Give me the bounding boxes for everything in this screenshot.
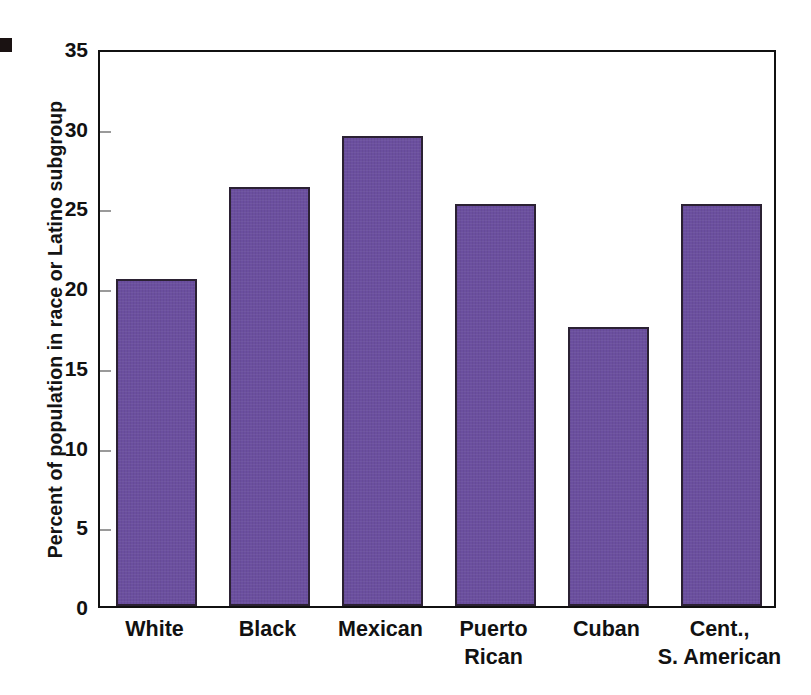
bar-texture	[344, 138, 421, 604]
y-axis-tick-label-0: 0	[40, 597, 88, 618]
x-axis-label-black: Black	[203, 616, 332, 644]
y-axis-tick-5	[100, 529, 111, 531]
y-axis-tick-label-35: 35	[40, 39, 88, 60]
y-axis-tick-30	[100, 131, 111, 133]
chart-figure: Percent of population in race or Latino …	[0, 0, 811, 695]
x-axis-label-mexican: Mexican	[316, 616, 445, 644]
plot-area	[98, 50, 776, 608]
bar-texture	[457, 206, 534, 604]
y-axis-tick-20	[100, 290, 111, 292]
plot-inner	[100, 52, 774, 606]
y-axis-tick-label-10: 10	[40, 438, 88, 459]
bar-mexican	[342, 136, 423, 606]
bar-texture	[231, 189, 308, 604]
y-axis-tick-label-30: 30	[40, 119, 88, 140]
y-axis-tick-25	[100, 210, 111, 212]
x-axis-label-cuban: Cuban	[542, 616, 671, 644]
y-axis-title: Percent of population in race or Latino …	[44, 25, 67, 635]
y-axis-tick-label-20: 20	[40, 278, 88, 299]
bar-cuban	[568, 327, 649, 606]
bar-white	[116, 279, 197, 606]
bar-texture	[570, 329, 647, 604]
bar-texture	[118, 281, 195, 604]
bar-puerto-rican	[455, 204, 536, 606]
x-axis-label-white: White	[90, 616, 219, 644]
bar-cent-s-american	[681, 204, 762, 606]
x-axis-label-cent-s-american: Cent., S. American	[655, 616, 784, 671]
y-axis-tick-label-5: 5	[40, 517, 88, 538]
y-axis-tick-label-25: 25	[40, 198, 88, 219]
y-axis-tick-15	[100, 370, 111, 372]
y-axis-tick-10	[100, 450, 111, 452]
bar-texture	[683, 206, 760, 604]
y-axis-tick-label-15: 15	[40, 358, 88, 379]
x-axis-label-puerto-rican: Puerto Rican	[429, 616, 558, 671]
figure-bullet-square-icon	[0, 38, 12, 52]
bar-black	[229, 187, 310, 606]
